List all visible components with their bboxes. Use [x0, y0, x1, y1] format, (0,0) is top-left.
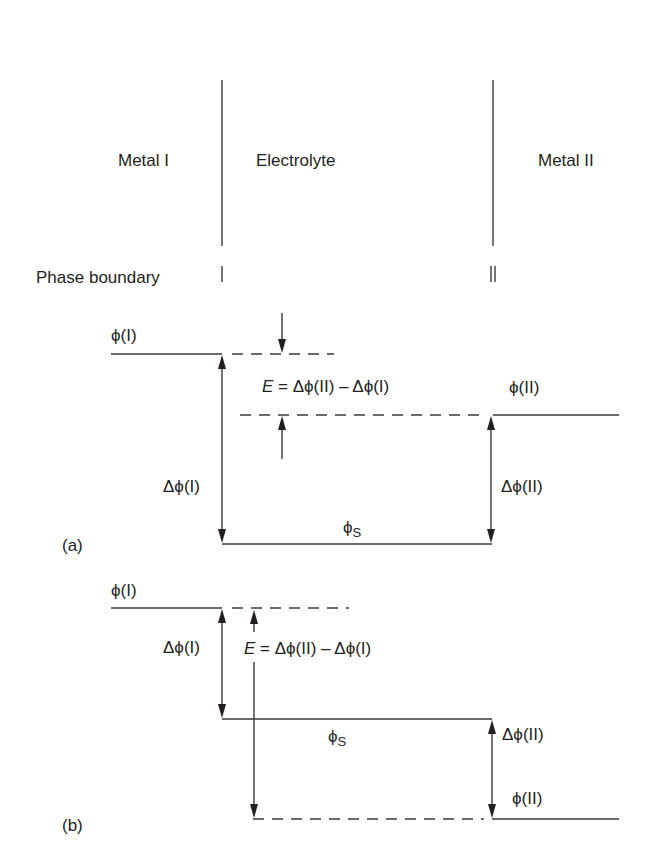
- phi-I-label: ϕ(I): [111, 581, 137, 600]
- phase-boundary-label: Phase boundary: [36, 268, 160, 287]
- arrowhead-down: [250, 804, 258, 818]
- delta-phi-II-label: Δϕ(II): [502, 725, 544, 744]
- arrowhead-up: [218, 609, 226, 623]
- phi-II-label: ϕ(II): [512, 789, 542, 808]
- region-label-metal-I: Metal I: [118, 151, 169, 170]
- region-label-metal-II: Metal II: [538, 151, 594, 170]
- delta-phi-II-label: Δϕ(II): [501, 477, 543, 496]
- panel-tag-b: (b): [62, 816, 83, 835]
- arrowhead-up: [218, 355, 226, 369]
- arrowhead-up: [250, 610, 258, 624]
- delta-phi-I-label: Δϕ(I): [163, 638, 200, 657]
- arrowhead-down: [488, 804, 496, 818]
- region-label-electrolyte: Electrolyte: [256, 151, 335, 170]
- arrowhead-down: [278, 339, 286, 353]
- arrowhead-up: [487, 416, 495, 430]
- emf-equation: E = Δϕ(II) – Δϕ(I): [244, 639, 371, 658]
- panel-tag-a: (a): [62, 536, 83, 555]
- phi-S-label: ϕS: [343, 518, 362, 540]
- emf-equation: E = Δϕ(II) – Δϕ(I): [262, 377, 389, 396]
- panel-b: ϕ(I) Δϕ(I) E = Δϕ(II) – Δϕ(I) ϕS Δϕ(II) …: [62, 581, 619, 835]
- arrowhead-down: [218, 704, 226, 718]
- delta-phi-I-label: Δϕ(I): [163, 477, 200, 496]
- potential-diagram: Metal I Electrolyte Metal II Phase bound…: [0, 0, 653, 857]
- arrowhead-down: [487, 529, 495, 543]
- arrowhead-up: [278, 416, 286, 430]
- arrowhead-up: [488, 720, 496, 734]
- arrowhead-down: [218, 529, 226, 543]
- phi-I-label: ϕ(I): [111, 326, 137, 345]
- panel-a: ϕ(I) Δϕ(I) E = Δϕ(II) – Δϕ(I) ϕ(II) Δϕ(I…: [62, 313, 619, 555]
- phi-S-label: ϕS: [328, 727, 347, 749]
- phi-II-label: ϕ(II): [509, 378, 539, 397]
